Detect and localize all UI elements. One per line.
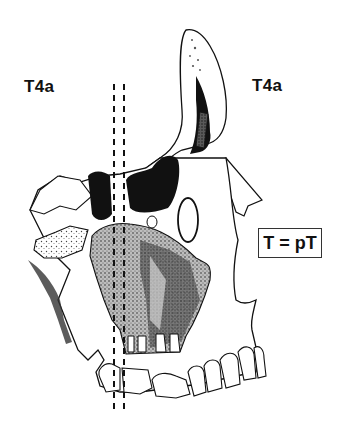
- equation-text: T = pT: [263, 233, 317, 254]
- anatomy-figure: T4a T4a T = pT: [0, 0, 341, 432]
- stage-label-left: T4a: [24, 78, 54, 95]
- orbit-rim: [178, 198, 198, 242]
- maxilla-illustration: [0, 0, 341, 432]
- stage-label-right: T4a: [252, 77, 282, 94]
- frontal-process: [146, 30, 226, 172]
- t-equals-pt-box: T = pT: [258, 228, 322, 258]
